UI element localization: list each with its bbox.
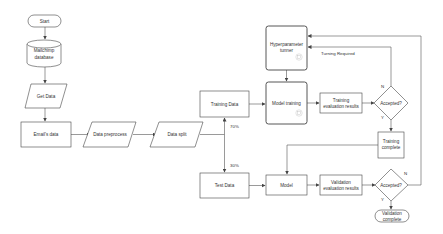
- train-no-label: N: [381, 84, 384, 89]
- start-label: Start: [40, 19, 50, 24]
- database-label-line1: Mailchimp: [34, 48, 55, 53]
- train-yes-label: Y: [381, 115, 384, 120]
- data-split-node[interactable]: Data split: [150, 122, 203, 147]
- split-test-label: 30%: [230, 163, 239, 168]
- database-label-line2: database: [35, 55, 54, 60]
- hyperparameter-tuner-label-line1: Hyperparameter: [270, 42, 304, 47]
- val-yes-label: Y: [381, 197, 384, 202]
- nodes: Start Mailchimp database Get Data Email'…: [21, 15, 409, 222]
- start-node[interactable]: Start: [28, 15, 61, 27]
- edge-trainingcomplete-model: [287, 145, 378, 174]
- validation-complete-node[interactable]: Validation complete: [375, 210, 409, 222]
- val-no-label: N: [404, 171, 407, 176]
- emails-data-node[interactable]: Email's data: [21, 122, 71, 147]
- emails-data-label: Email's data: [34, 132, 59, 137]
- validation-complete-label-line2: complete: [383, 217, 402, 222]
- training-eval-node[interactable]: Training evaluation results: [320, 93, 362, 113]
- training-data-label: Training Data: [211, 102, 239, 107]
- accepted-validation-label: Accepted?: [380, 183, 402, 188]
- model-training-label: Model training: [272, 101, 301, 106]
- test-data-label: Test Data: [215, 183, 235, 188]
- training-complete-label-line1: Training: [383, 139, 400, 144]
- training-complete-node[interactable]: Training complete: [378, 132, 404, 158]
- test-data-node[interactable]: Test Data: [200, 173, 249, 198]
- validation-eval-node[interactable]: Validation evaluation results: [320, 175, 362, 195]
- split-train-label: 70%: [230, 124, 239, 129]
- accepted-training-decision[interactable]: Accepted?: [374, 86, 408, 120]
- data-preprocess-node[interactable]: Data preprocess: [83, 122, 136, 147]
- model-node[interactable]: Model: [266, 175, 307, 195]
- hyperparameter-tuner-node[interactable]: Hyperparameter tunner: [266, 26, 307, 70]
- get-data-node[interactable]: Get Data: [25, 84, 67, 108]
- validation-eval-label-line1: Validation: [331, 180, 351, 185]
- validation-eval-label-line2: evaluation results: [323, 186, 359, 191]
- get-data-label: Get Data: [37, 94, 56, 99]
- training-complete-label-line2: complete: [382, 145, 401, 150]
- training-eval-label-line1: Training: [333, 98, 350, 103]
- accepted-training-label: Accepted?: [380, 101, 402, 106]
- tuning-required-label: Turning Required: [321, 51, 355, 56]
- data-preprocess-label: Data preprocess: [93, 132, 127, 137]
- training-eval-label-line2: evaluation results: [323, 104, 359, 109]
- database-node[interactable]: Mailchimp database: [27, 40, 61, 67]
- model-training-node[interactable]: Model training: [266, 82, 307, 124]
- model-label: Model: [280, 183, 293, 188]
- data-split-label: Data split: [167, 132, 187, 137]
- training-data-node[interactable]: Training Data: [200, 91, 249, 117]
- flowchart-canvas: Start Mailchimp database Get Data Email'…: [0, 0, 443, 234]
- validation-complete-label-line1: Validation: [382, 211, 402, 216]
- hyperparameter-tuner-label-line2: tunner: [280, 48, 293, 53]
